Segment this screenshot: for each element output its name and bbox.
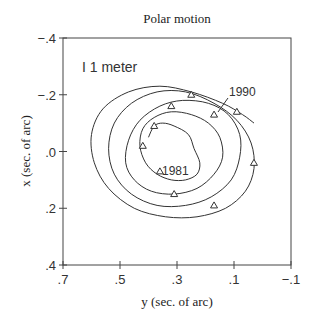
label-1990: 1990: [229, 85, 256, 99]
year-markers: [139, 91, 257, 208]
triangle-marker-icon: [168, 103, 175, 109]
x-tick-label: .3: [172, 272, 183, 287]
y-axis-label: x (sec. of arc): [18, 115, 33, 186]
chart-title: Polar motion: [143, 11, 211, 26]
x-tick-label: −.1: [282, 272, 300, 287]
scale-bar-label: I 1 meter: [82, 59, 138, 75]
x-tick-label: .7: [58, 272, 69, 287]
triangle-marker-icon: [211, 111, 218, 117]
triangle-marker-icon: [151, 122, 158, 128]
y-tick-label: .0: [45, 145, 56, 160]
x-tick-label: .5: [115, 272, 126, 287]
y-tick-label: −.4: [38, 31, 56, 46]
label-1981: 1981: [162, 164, 189, 178]
x-tick-label: .1: [229, 272, 240, 287]
y-tick-label: .2: [45, 201, 56, 216]
polar-motion-chart: Polar motion −.4−.2.0.2.4 .7.5.3.1−.1 y …: [0, 0, 313, 324]
triangle-marker-icon: [211, 202, 218, 208]
y-tick-label: −.2: [38, 88, 56, 103]
triangle-marker-icon: [250, 159, 257, 165]
y-tick-label: .4: [45, 258, 56, 273]
x-axis-label: y (sec. of arc): [141, 294, 212, 309]
